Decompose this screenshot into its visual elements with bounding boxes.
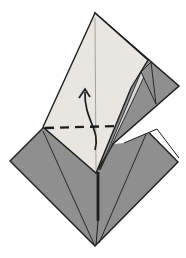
origami-step-diagram (0, 0, 186, 258)
origami-diagram-canvas (0, 0, 186, 258)
